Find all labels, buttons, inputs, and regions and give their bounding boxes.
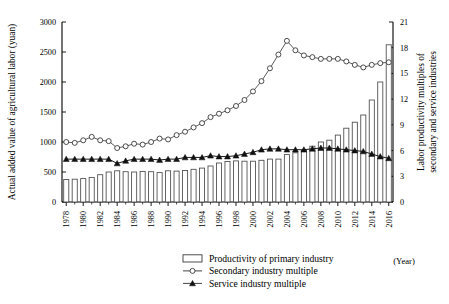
legend-label: Service industry multiple	[209, 278, 306, 289]
data-point-marker	[301, 53, 306, 58]
x-axis-tick-label: 2010	[334, 211, 343, 227]
data-point-marker	[284, 38, 289, 43]
y-axis-right-tick-label: 15	[400, 69, 408, 78]
y-axis-left-tick-label: 3000	[40, 18, 56, 27]
bar	[166, 171, 171, 202]
data-point-marker	[123, 144, 128, 149]
bar	[81, 179, 86, 202]
data-point-marker	[89, 134, 94, 139]
y-axis-left-title: Actual added value of agricultural labor…	[7, 24, 18, 201]
x-axis-tick-label: 1986	[130, 211, 139, 227]
x-axis-tick-label: 2014	[368, 211, 377, 227]
data-point-marker	[157, 136, 162, 141]
data-point-marker	[140, 142, 145, 147]
y-axis-right-tick-label: 18	[400, 44, 408, 53]
legend-item: Service industry multiple	[183, 278, 306, 289]
y-axis-right-title-line2: secondary and service industries	[428, 51, 438, 173]
x-axis-title: (Year)	[393, 256, 415, 266]
data-point-marker	[276, 52, 281, 57]
data-point-marker	[310, 55, 315, 60]
bar	[132, 172, 137, 202]
bar	[183, 171, 188, 203]
y-axis-left-tick-label: 2000	[40, 78, 56, 87]
x-axis-tick-label: 2012	[351, 211, 360, 227]
data-point-marker	[208, 153, 214, 158]
x-axis-tick-label: 1988	[147, 211, 156, 227]
y-axis-right-tick-label: 0	[400, 198, 404, 207]
data-point-marker	[217, 111, 222, 116]
data-point-marker	[361, 65, 366, 70]
bar	[242, 161, 247, 202]
data-point-marker	[267, 66, 272, 71]
bar	[293, 153, 298, 202]
bar	[199, 168, 204, 202]
bar	[250, 161, 255, 202]
bar	[140, 171, 145, 202]
bar	[335, 135, 340, 202]
bar	[216, 163, 221, 202]
x-axis-tick-label: 1980	[79, 211, 88, 227]
legend-item: Productivity of primary industry	[183, 253, 334, 264]
x-axis-tick-label: 1984	[113, 211, 122, 227]
data-point-marker	[183, 129, 188, 134]
data-point-marker	[115, 146, 120, 151]
bar	[123, 172, 128, 202]
x-axis-tick-label: 1996	[215, 211, 224, 227]
chart-figure: Actual added value of agricultural labor…	[0, 0, 449, 304]
data-point-marker	[149, 140, 154, 145]
data-point-marker	[344, 59, 349, 64]
bar	[284, 155, 289, 202]
bar	[386, 45, 391, 202]
y-axis-left-tick-label: 1500	[40, 108, 56, 117]
data-point-marker	[250, 89, 255, 94]
bar	[89, 177, 94, 202]
data-point-marker	[132, 141, 137, 146]
data-point-marker	[369, 62, 374, 67]
bar-series-primary-industry	[64, 45, 392, 202]
bar	[267, 159, 272, 202]
bar	[310, 146, 315, 202]
data-point-marker	[81, 138, 86, 143]
data-point-marker	[318, 56, 323, 61]
x-axis-tick-label: 1992	[181, 211, 190, 227]
x-axis-tick-label: 2016	[385, 211, 394, 227]
y-axis-right-tick-label: 9	[400, 121, 404, 130]
data-point-marker	[233, 104, 238, 109]
x-axis-tick-label: 1982	[96, 211, 105, 227]
x-axis-tick-label: 2000	[249, 211, 258, 227]
x-axis-tick-label: 1994	[198, 211, 207, 227]
data-point-marker	[352, 62, 357, 67]
data-point-marker	[293, 48, 298, 53]
line-series-secondary-industry	[64, 38, 392, 150]
bar	[191, 169, 196, 202]
x-axis-tick-label: 1978	[62, 211, 71, 227]
data-point-marker	[225, 108, 230, 113]
bar	[259, 160, 264, 202]
data-point-marker	[72, 140, 77, 145]
bar	[157, 173, 162, 202]
x-axis-tick-label: 1998	[232, 211, 241, 227]
bar	[276, 159, 281, 202]
legend-label: Productivity of primary industry	[209, 253, 334, 264]
y-axis-left-tick-label: 2500	[40, 48, 56, 57]
data-point-marker	[208, 115, 213, 120]
bar	[378, 82, 383, 202]
data-point-marker	[166, 137, 171, 142]
bar	[318, 142, 323, 202]
data-point-marker	[378, 61, 383, 66]
y-axis-left-tick-label: 500	[44, 168, 56, 177]
data-point-marker	[386, 60, 391, 65]
data-point-marker	[335, 56, 340, 61]
y-axis-right-tick-label: 6	[400, 147, 404, 156]
x-axis-tick-label: 1990	[164, 211, 173, 227]
data-point-marker	[200, 121, 205, 126]
y-axis-left-tick-label: 0	[52, 198, 56, 207]
bar	[64, 180, 69, 203]
bar	[301, 150, 306, 202]
legend-marker-open-circle-icon	[190, 268, 195, 273]
bar	[233, 161, 238, 202]
data-point-marker	[327, 56, 332, 61]
bar	[361, 115, 366, 202]
y-axis-right-tick-label: 12	[400, 95, 408, 104]
y-axis-left-tick-label: 1000	[40, 138, 56, 147]
